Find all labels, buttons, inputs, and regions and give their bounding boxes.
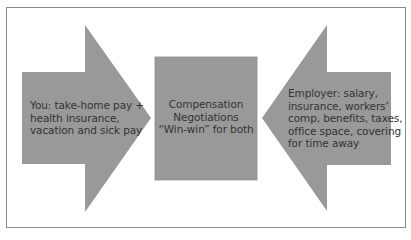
center-box-line: “Win-win” for both xyxy=(155,123,257,136)
right-arrow-line: comp, benefits, taxes, xyxy=(288,112,402,125)
left-arrow-label: You: take-home pay + health insurance, v… xyxy=(30,99,144,137)
right-arrow-line: office space, covering xyxy=(288,125,402,138)
center-box-line: Compensation xyxy=(155,98,257,111)
left-arrow-line: vacation and sick pay xyxy=(30,124,144,137)
right-arrow-line: insurance, workers’ xyxy=(288,100,402,113)
center-box-line: Negotiations xyxy=(155,111,257,124)
right-arrow-line: for time away xyxy=(288,137,402,150)
left-arrow-line: health insurance, xyxy=(30,112,144,125)
right-arrow-line: Employer: salary, xyxy=(288,87,402,100)
right-arrow-label: Employer: salary, insurance, workers’ co… xyxy=(288,87,402,150)
center-box-label: Compensation Negotiations “Win-win” for … xyxy=(155,98,257,136)
left-arrow-line: You: take-home pay + xyxy=(30,99,144,112)
